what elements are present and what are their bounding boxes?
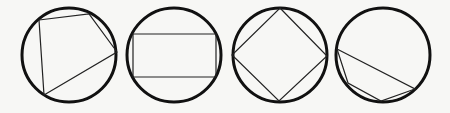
circle-1 <box>22 8 116 102</box>
diagram-canvas <box>0 0 450 113</box>
figure-1 <box>22 8 117 102</box>
circle-4 <box>336 8 430 102</box>
rectangle-2 <box>133 34 216 77</box>
figure-2 <box>127 8 221 102</box>
figure-3 <box>232 8 327 102</box>
circle-3 <box>233 8 327 102</box>
figure-4 <box>336 8 430 102</box>
circle-2 <box>127 8 221 102</box>
quadrilateral-4 <box>337 49 415 101</box>
